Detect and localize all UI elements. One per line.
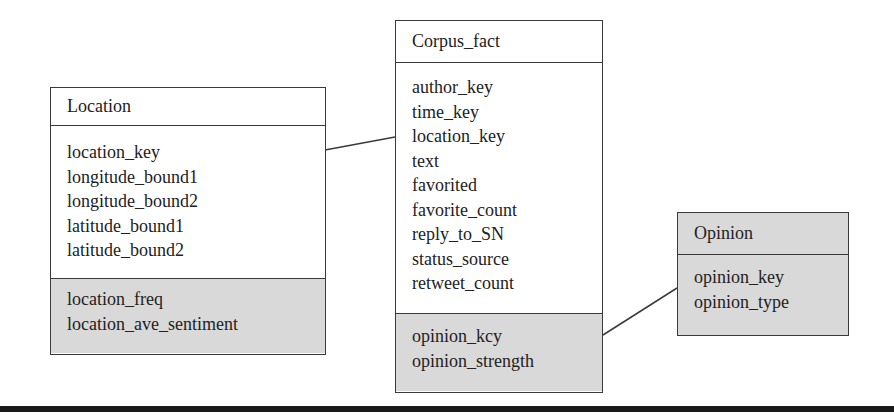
link-location-corpus-fact xyxy=(325,137,395,150)
bottom-rule xyxy=(0,406,894,412)
field: retweet_count xyxy=(412,271,602,296)
entity-title: Corpus_fact xyxy=(396,21,602,63)
field: time_key xyxy=(412,100,602,125)
link-corpus-fact-opinion xyxy=(603,288,677,335)
field: status_source xyxy=(412,247,602,272)
entity-title: Opinion xyxy=(678,213,848,255)
field: opinion_kcy xyxy=(412,324,602,349)
field: location_freq xyxy=(67,287,325,312)
field: opinion_strength xyxy=(412,349,602,374)
field: reply_to_SN xyxy=(412,222,602,247)
entity-derived-fields: location_freq location_ave_sentiment xyxy=(51,278,325,353)
field: opinion_key xyxy=(694,265,848,290)
field: longitude_bound2 xyxy=(67,189,325,214)
entity-fields: opinion_key opinion_type xyxy=(678,255,848,314)
field: opinion_type xyxy=(694,290,848,315)
field: location_key xyxy=(412,124,602,149)
entity-fields: author_key time_key location_key text fa… xyxy=(396,63,602,313)
field: latitude_bound2 xyxy=(67,238,325,263)
field: text xyxy=(412,149,602,174)
field: latitude_bound1 xyxy=(67,214,325,239)
entity-fields: location_key longitude_bound1 longitude_… xyxy=(51,126,325,278)
entity-location: Location location_key longitude_bound1 l… xyxy=(50,87,326,355)
entity-title: Location xyxy=(51,88,325,126)
field: location_ave_sentiment xyxy=(67,312,325,337)
field: location_key xyxy=(67,140,325,165)
entity-derived-fields: opinion_kcy opinion_strength xyxy=(396,313,602,391)
entity-corpus-fact: Corpus_fact author_key time_key location… xyxy=(395,20,603,393)
field: longitude_bound1 xyxy=(67,165,325,190)
field: author_key xyxy=(412,75,602,100)
field: favorite_count xyxy=(412,198,602,223)
entity-opinion: Opinion opinion_key opinion_type xyxy=(677,212,849,336)
field: favorited xyxy=(412,173,602,198)
